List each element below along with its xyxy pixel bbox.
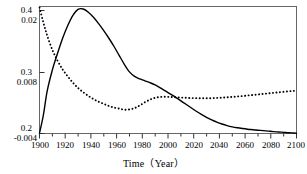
xtick-2100: 2100 [282, 141, 307, 150]
xtick-1940: 1940 [77, 141, 105, 150]
xtick-1980: 1980 [128, 141, 156, 150]
ytick-outer-0: 0.4 [0, 6, 32, 15]
chart-container: 0.4 0.3 0.2 0.02 0.008 -0.004 1900 1920 … [0, 0, 307, 174]
xtick-2000: 2000 [154, 141, 182, 150]
xtick-1920: 1920 [51, 141, 79, 150]
x-axis-title: Time（Year） [0, 158, 307, 169]
ytick-inner-1: 0.008 [0, 78, 37, 87]
ytick-inner-0: 0.02 [0, 16, 37, 25]
xtick-2080: 2080 [257, 141, 285, 150]
xtick-2060: 2060 [231, 141, 259, 150]
xtick-1900: 1900 [26, 141, 54, 150]
xtick-1960: 1960 [103, 141, 131, 150]
ytick-outer-2: 0.2 [0, 124, 32, 133]
xtick-2020: 2020 [180, 141, 208, 150]
plot-frame [40, 7, 297, 134]
xtick-2040: 2040 [205, 141, 233, 150]
x-axis-ticks [40, 134, 297, 139]
ytick-outer-1: 0.3 [0, 68, 32, 77]
